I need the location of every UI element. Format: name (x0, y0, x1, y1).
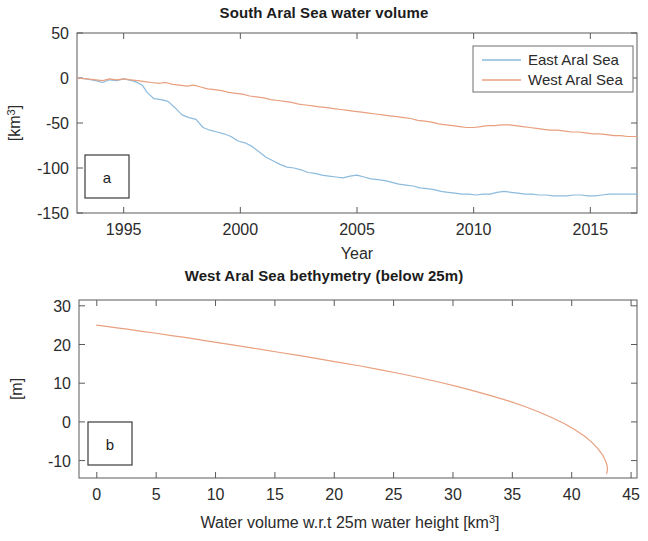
panel-a-xtick-label: 2015 (573, 221, 609, 238)
panel-a-ytick-label: -100 (37, 160, 69, 177)
panel-a-xtick-label: 2010 (456, 221, 492, 238)
panel-b-xlabel: Water volume w.r.t 25m water height [km3… (201, 513, 500, 531)
panel-b-xtick-label: 20 (325, 486, 343, 503)
panel-b-ytick-label: 30 (53, 298, 71, 315)
panel-a-xtick-label: 2000 (223, 221, 259, 238)
panel-b-xtick-label: 15 (266, 486, 284, 503)
panel-a-xtick-label: 1995 (106, 221, 142, 238)
panel-a-tag: a (85, 155, 129, 198)
legend: East Aral SeaWest Aral Sea (473, 46, 633, 92)
panel-b-plot: -100102030051015202530354045Water volume… (0, 262, 648, 541)
panel-b: West Aral Sea bethymetry (below 25m) -10… (0, 262, 648, 541)
panel-a-plot: -150-100-5005019952000200520102015Year[k… (0, 0, 648, 265)
panel-b-axis-box (79, 300, 637, 478)
figure: South Aral Sea water volume -150-100-500… (0, 0, 648, 541)
svg-text:b: b (106, 436, 114, 453)
panel-b-xtick-label: 40 (563, 486, 581, 503)
panel-b-ytick-label: 20 (53, 337, 71, 354)
panel-a-ytick-label: -150 (37, 205, 69, 222)
panel-a-ytick-label: -50 (46, 115, 69, 132)
legend-label: West Aral Sea (528, 71, 623, 88)
panel-b-xtick-label: 35 (503, 486, 521, 503)
panel-b-ylabel: [m] (8, 378, 25, 400)
series-west-aral-sea-bathymetry (97, 325, 608, 473)
panel-a-ytick-label: 50 (51, 25, 69, 42)
panel-b-xtick-label: 45 (622, 486, 640, 503)
panel-b-xtick-label: 30 (444, 486, 462, 503)
panel-b-tag: b (88, 422, 132, 465)
svg-text:[m]: [m] (8, 378, 25, 400)
panel-b-ytick-label: 10 (53, 375, 71, 392)
svg-text:[km3]: [km3] (5, 105, 23, 141)
panel-b-xtick-label: 5 (152, 486, 161, 503)
panel-a: South Aral Sea water volume -150-100-500… (0, 0, 648, 265)
panel-a-xlabel: Year (341, 245, 374, 262)
svg-text:a: a (103, 169, 112, 186)
panel-a-ytick-label: 0 (60, 70, 69, 87)
panel-b-xtick-label: 10 (207, 486, 225, 503)
series-east-aral-sea (77, 78, 637, 196)
panel-b-ytick-label: -10 (48, 453, 71, 470)
panel-b-ytick-label: 0 (62, 414, 71, 431)
panel-a-xtick-label: 2005 (339, 221, 375, 238)
legend-label: East Aral Sea (528, 51, 620, 68)
panel-b-xtick-label: 0 (92, 486, 101, 503)
panel-a-ylabel: [km3] (5, 105, 23, 141)
panel-b-xtick-label: 25 (385, 486, 403, 503)
